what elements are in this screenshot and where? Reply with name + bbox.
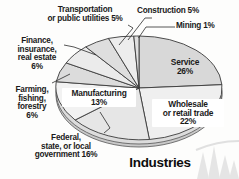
pie-label-manufacturing: Manufacturing 13% [62, 88, 136, 107]
pie-chart-figure: Transportation or public utilities 5% Co… [0, 0, 239, 179]
pie-label-government: Federal, state, or local government 16% [14, 134, 118, 160]
pie-label-mining: Mining 1% [176, 22, 238, 31]
pie-label-service: Service 26% [160, 58, 210, 75]
pie-label-wholesale: Wholesale or retail trade 22% [152, 99, 224, 127]
pie-label-transportation: Transportation or public utilities 5% [32, 6, 138, 23]
decorative-swoosh [196, 141, 239, 150]
pie-label-farming: Farming, fishing, forestry 6% [6, 86, 58, 120]
pie-label-construction: Construction 5% [137, 7, 215, 16]
chart-title: Industries [112, 155, 208, 170]
pie-label-finance: Finance, insurance, real estate 6% [6, 37, 68, 71]
